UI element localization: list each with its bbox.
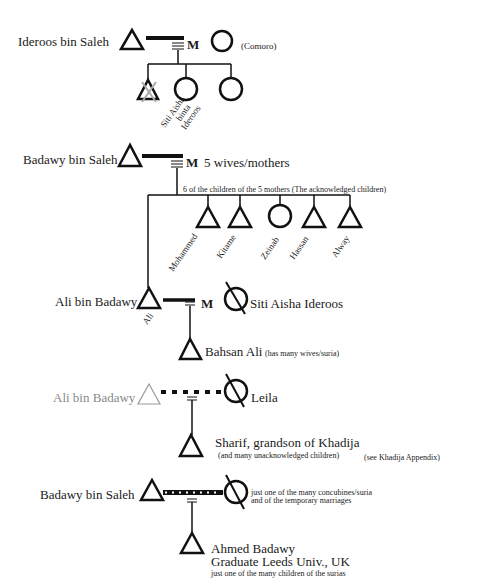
- child-name-kitame: Kitame: [214, 233, 237, 260]
- father-label: Badawy bin Saleh: [23, 152, 118, 167]
- mother-note-line2: and of the temporary marriages: [251, 496, 351, 505]
- child-name-alway: Alway: [329, 233, 351, 259]
- marriage-marker: M: [186, 155, 198, 170]
- father-label: Badawy bin Saleh: [40, 487, 135, 502]
- child-name-mohammed: Mohammed: [166, 231, 199, 273]
- father-label-faded: Ali bin Badawy: [53, 390, 136, 405]
- male-triangle-icon: [138, 288, 160, 308]
- children-note: 6 of the children of the 5 mothers (The …: [183, 185, 386, 194]
- child-note: (has many wives/suria): [265, 349, 340, 358]
- section-badawy: Badawy bin Saleh M 5 wives/mothers 6 of …: [23, 145, 386, 288]
- marriage-marker: M: [201, 296, 213, 311]
- section-ideroos: Ideroos bin Saleh M (Comoro) Siti Aisha …: [18, 30, 277, 139]
- male-triangle-icon: [119, 145, 141, 166]
- section-ali-leila: Ali bin Badawy Leila Sharif, grandson of…: [53, 374, 440, 462]
- female-circle-icon: [220, 78, 242, 100]
- male-triangle-icon: [141, 480, 163, 500]
- male-triangle-icon: [303, 207, 325, 227]
- mother-note: 5 wives/mothers: [204, 155, 290, 170]
- appendix-note: (see Khadija Appendix): [364, 453, 440, 462]
- mother-note: (Comoro): [241, 41, 277, 51]
- female-circle-icon: [269, 205, 291, 227]
- child-note: (and many unacknowledged children): [218, 451, 339, 460]
- mother-label: Siti Aisha Ideroos: [250, 296, 343, 311]
- mother-label: Leila: [251, 390, 278, 405]
- male-triangle-icon: [180, 435, 202, 456]
- child-name-hassan: Hassan: [287, 234, 310, 261]
- father-label: Ideroos bin Saleh: [18, 34, 109, 49]
- male-triangle-icon: [339, 207, 361, 227]
- father-label: Ali bin Badawy: [55, 294, 138, 309]
- section-badawy-suria: Badawy bin Saleh just one of the many co…: [40, 475, 373, 578]
- male-triangle-icon: [229, 207, 251, 227]
- ali-short-label: Ali: [140, 311, 155, 327]
- child-label: Sharif, grandson of Khadija: [215, 435, 360, 450]
- male-triangle-icon: [181, 533, 203, 553]
- child-label: Bahsan Ali: [205, 344, 263, 359]
- child-education: Graduate Leeds Univ., UK: [211, 554, 350, 569]
- section-ali-aisha: Ali bin Badawy Ali M Siti Aisha Ideroos …: [55, 282, 343, 359]
- kinship-diagram: Ideroos bin Saleh M (Comoro) Siti Aisha …: [0, 0, 481, 588]
- female-circle-icon: [212, 31, 232, 51]
- male-triangle-icon: [180, 339, 201, 359]
- male-triangle-icon: [197, 207, 219, 227]
- marriage-marker: M: [187, 37, 199, 52]
- child-note: just one of the many children of the sur…: [210, 569, 346, 578]
- male-triangle-faded-icon: [138, 384, 160, 404]
- child-name-zeinab: Zeinab: [258, 235, 281, 262]
- male-triangle-icon: [121, 30, 143, 49]
